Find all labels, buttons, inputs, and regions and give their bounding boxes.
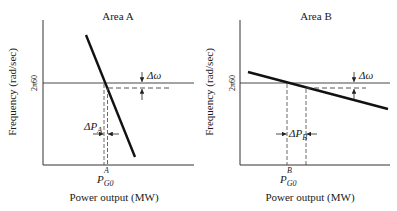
panel-title: Area A bbox=[102, 10, 134, 22]
y-tick-label: 2π60 bbox=[30, 75, 39, 91]
x-axis-label: Power output (MW) bbox=[69, 191, 159, 204]
panel-area-b: Area B Frequency (rad/sec) 2π60 Δω ΔPB P… bbox=[203, 10, 390, 204]
delta-p-label: ΔPA bbox=[83, 120, 102, 135]
y-tick-label: 2π60 bbox=[228, 75, 237, 91]
delta-omega-label: Δω bbox=[358, 69, 373, 81]
y-axis-label: Frequency (rad/sec) bbox=[6, 48, 19, 136]
x-axis-label: Power output (MW) bbox=[265, 191, 355, 204]
pg0-superscript: B bbox=[287, 166, 292, 175]
diagram-canvas: Area A Frequency (rad/sec) 2π60 Δω ΔPA P… bbox=[0, 0, 397, 211]
panel-title: Area B bbox=[300, 10, 331, 22]
pg0-superscript: A bbox=[103, 166, 109, 175]
pg0-label: PG0 bbox=[96, 173, 114, 188]
panel-area-a: Area A Frequency (rad/sec) 2π60 Δω ΔPA P… bbox=[6, 10, 194, 204]
delta-p-label: ΔPB bbox=[288, 127, 307, 142]
droop-characteristic-line bbox=[86, 35, 135, 157]
delta-omega-label: Δω bbox=[146, 69, 161, 81]
pg0-label: PG0 bbox=[279, 173, 297, 188]
y-axis-label: Frequency (rad/sec) bbox=[203, 48, 216, 136]
